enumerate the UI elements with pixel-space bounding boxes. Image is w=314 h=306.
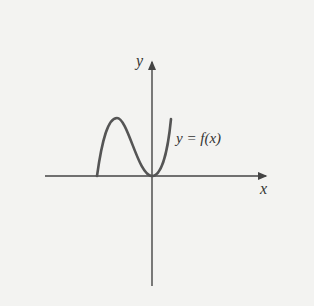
curve-f [97,118,171,176]
x-axis-label: x [259,180,267,197]
curve-label: y = f(x) [174,130,221,147]
y-axis-label: y [134,52,144,70]
function-graph: y x y = f(x) [0,0,314,306]
